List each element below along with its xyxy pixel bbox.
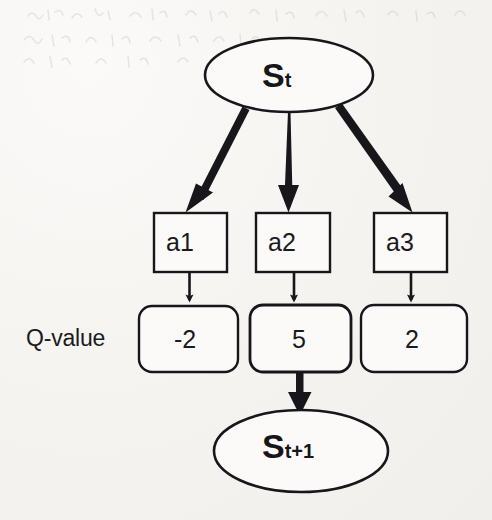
diagram-canvas [0, 0, 492, 520]
qvalue-box-2[interactable] [361, 305, 467, 372]
transition-arrow-to-action-2 [335, 104, 413, 213]
action-box-0[interactable] [154, 213, 227, 272]
action-box-1[interactable] [256, 213, 330, 272]
qvalue-box-0[interactable] [139, 306, 238, 372]
state-node-current [205, 38, 373, 112]
diagram-page: St St+1 a1 a2 a3 -2 5 2 Q-value [0, 0, 492, 520]
state-node-next [214, 410, 388, 492]
action-box-2[interactable] [374, 213, 447, 272]
transition-arrow-to-action-1 [278, 112, 299, 213]
transition-arrow-to-action-0 [186, 107, 250, 213]
qvalue-box-1[interactable] [250, 305, 351, 372]
